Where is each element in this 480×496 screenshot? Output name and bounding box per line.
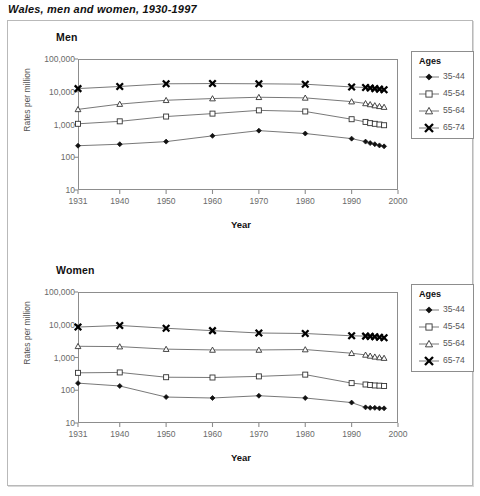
x-tick-label: 1950 xyxy=(157,429,176,439)
legend-entry-45-54: 45-54 xyxy=(417,87,473,101)
figure-frame: Men 100,00010,0001,00010010 Rates per mi… xyxy=(7,20,473,486)
x-tick-label: 1960 xyxy=(203,196,222,206)
legend-title-women: Ages xyxy=(419,289,441,299)
series-55-64 xyxy=(75,343,387,360)
series-65-74 xyxy=(75,80,388,93)
x-axis-label-women: Year xyxy=(8,452,474,463)
filled-diamond-icon xyxy=(417,303,441,317)
legend-label: 55-64 xyxy=(443,105,465,115)
series-65-74 xyxy=(75,322,388,341)
x-tick-label: 1980 xyxy=(296,429,315,439)
series-55-64 xyxy=(75,94,387,111)
series-35-44 xyxy=(76,128,387,149)
legend-entry-65-74: 65-74 xyxy=(417,354,473,368)
legend-label: 35-44 xyxy=(443,304,465,314)
x-tick-label: 1950 xyxy=(157,196,176,206)
series-35-44 xyxy=(76,381,387,411)
open-triangle-icon xyxy=(417,337,441,351)
x-tick-label: 1980 xyxy=(296,196,315,206)
x-tick-label: 2000 xyxy=(389,196,408,206)
legend-entry-55-64: 55-64 xyxy=(417,337,473,351)
x-tick-label: 1940 xyxy=(110,429,129,439)
legend-title-men: Ages xyxy=(419,56,441,66)
x-tick-label: 1990 xyxy=(342,196,361,206)
y-axis-label-women: Rates per million xyxy=(22,278,32,388)
open-square-icon xyxy=(417,87,441,101)
x-tick-label: 1960 xyxy=(203,429,222,439)
legend-entry-55-64: 55-64 xyxy=(417,104,473,118)
legend-label: 45-54 xyxy=(443,88,465,98)
legend-entry-65-74: 65-74 xyxy=(417,121,473,135)
legend-women: Ages 35-4445-5455-6465-74 xyxy=(411,284,474,372)
x-tick-label: 1931 xyxy=(69,429,88,439)
figure-root: Wales, men and women, 1930-1997 Men 100,… xyxy=(0,0,480,496)
open-triangle-icon xyxy=(417,104,441,118)
figure-title: Wales, men and women, 1930-1997 xyxy=(8,3,197,15)
legend-entry-35-44: 35-44 xyxy=(417,70,473,84)
x-tick-label: 1970 xyxy=(249,196,268,206)
x-tick-label: 1940 xyxy=(110,196,129,206)
y-axis-label-men: Rates per million xyxy=(22,45,32,155)
cross-x-icon xyxy=(417,354,441,368)
panel-women: Women 100,00010,0001,00010010 Rates per … xyxy=(8,254,474,487)
series-45-54 xyxy=(76,108,387,128)
x-tick-label: 1970 xyxy=(249,429,268,439)
legend-men: Ages 35-4445-5455-6465-74 xyxy=(411,51,474,139)
legend-entry-35-44: 35-44 xyxy=(417,303,473,317)
legend-label: 65-74 xyxy=(443,355,465,365)
plot-area-women: 100,00010,0001,00010010 Rates per millio… xyxy=(8,254,474,487)
legend-label: 55-64 xyxy=(443,338,465,348)
panel-men: Men 100,00010,0001,00010010 Rates per mi… xyxy=(8,21,474,254)
legend-entry-45-54: 45-54 xyxy=(417,320,473,334)
legend-label: 45-54 xyxy=(443,321,465,331)
legend-label: 65-74 xyxy=(443,122,465,132)
x-tick-label: 2000 xyxy=(389,429,408,439)
x-tick-label: 1990 xyxy=(342,429,361,439)
plot-area-men: 100,00010,0001,00010010 Rates per millio… xyxy=(8,21,474,254)
cross-x-icon xyxy=(417,121,441,135)
x-axis-label-men: Year xyxy=(8,219,474,230)
x-tick-label: 1931 xyxy=(69,196,88,206)
legend-label: 35-44 xyxy=(443,71,465,81)
filled-diamond-icon xyxy=(417,70,441,84)
open-square-icon xyxy=(417,320,441,334)
